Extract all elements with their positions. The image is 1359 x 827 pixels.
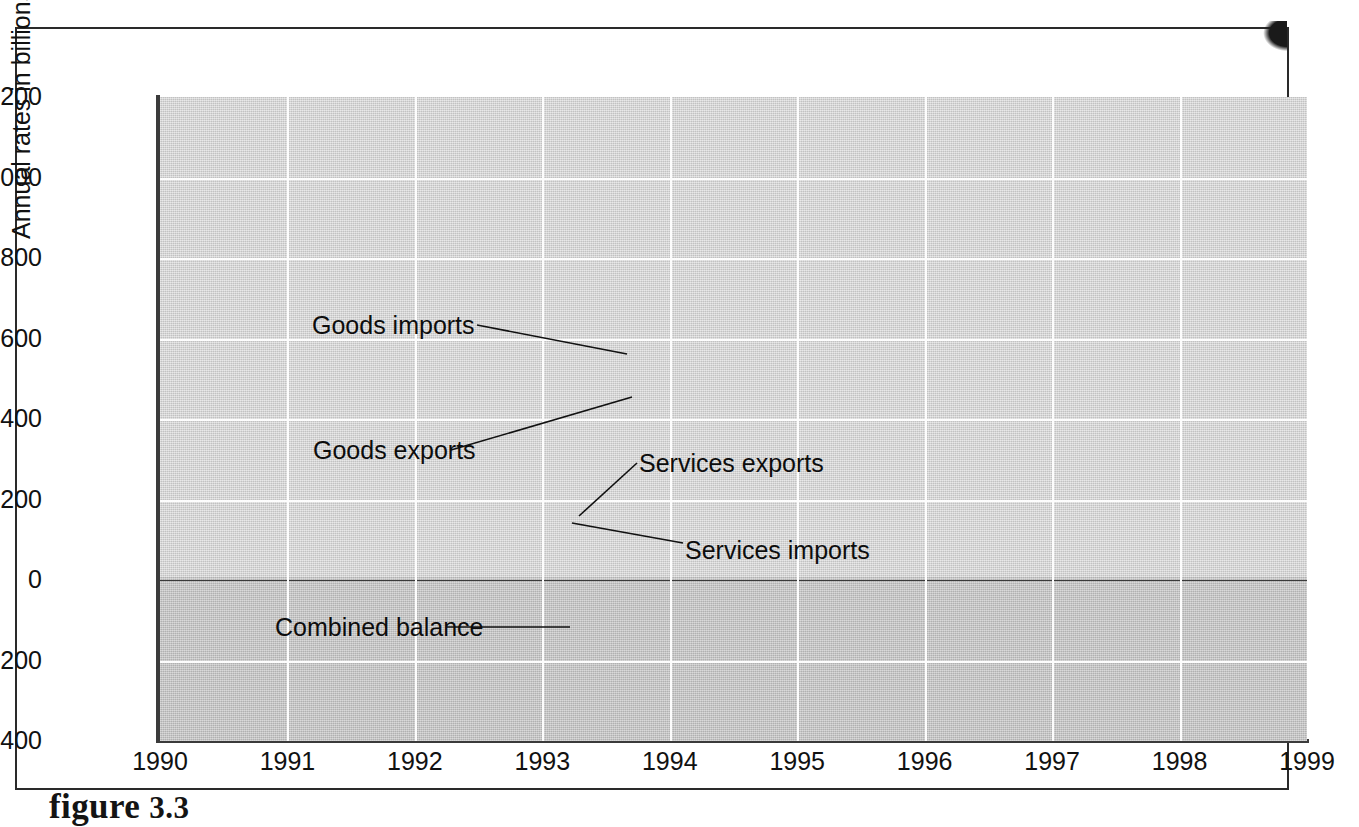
x-tick-label: 1999 [1247,747,1359,775]
page-corner-mark [1235,21,1287,61]
gridline-vertical [287,97,289,741]
plot-background-negative [160,577,1307,741]
plot-area [160,97,1307,741]
gridline-vertical [797,97,799,741]
gridline-vertical [1052,97,1054,741]
gridline-vertical [925,97,927,741]
x-tick-label: 1992 [355,747,475,775]
gridline-vertical [1180,97,1182,741]
gridline-horizontal [160,258,1307,260]
figure-frame: Annual rates in billions of dollars 1,20… [15,27,1289,790]
gridline-vertical [542,97,544,741]
y-tick-label: 400 [0,406,42,431]
y-tick-label: 1,000 [0,165,42,190]
x-tick-label: 1995 [737,747,857,775]
annotation-label-combined-balance: Combined balance [275,614,483,640]
gridline-vertical [415,97,417,741]
x-tick-label: 1990 [100,747,220,775]
x-tick-label: 1996 [865,747,985,775]
annotation-label-goods-exports: Goods exports [313,437,476,463]
y-tick-label: -400 [0,728,42,753]
zero-line [160,580,1307,581]
y-tick-label: 0 [0,567,42,592]
gridline-horizontal [160,661,1307,663]
x-tick-label: 1991 [227,747,347,775]
annotation-label-services-exports: Services exports [639,450,824,476]
caption-number: 3.3 [149,790,189,825]
y-tick-label: 600 [0,326,42,351]
figure-caption: figure 3.3 [49,787,189,827]
x-tick-label: 1993 [482,747,602,775]
x-tick-label: 1994 [610,747,730,775]
gridline-horizontal [160,419,1307,421]
x-tick-label: 1997 [992,747,1112,775]
y-tick-label: -200 [0,648,42,673]
y-axis-label: Annual rates in billions of dollars [7,0,36,239]
y-tick-label: 200 [0,487,42,512]
caption-word: figure [49,787,140,826]
gridline-horizontal [160,500,1307,502]
gridline-vertical [670,97,672,741]
y-tick-label: 800 [0,245,42,270]
y-tick-label: 1,200 [0,84,42,109]
annotation-label-services-imports: Services imports [685,537,870,563]
x-tick-label: 1998 [1120,747,1240,775]
annotation-label-goods-imports: Goods imports [312,312,475,338]
gridline-horizontal [160,178,1307,180]
